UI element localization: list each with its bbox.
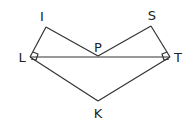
segment-LI [30, 27, 46, 57]
segment-IP [46, 27, 98, 56]
segment-ST [151, 26, 170, 57]
geometry-diagram: I S L P T K [0, 0, 193, 130]
label-L: L [18, 50, 26, 65]
segment-LK [30, 57, 98, 101]
segment-KT [98, 57, 170, 101]
label-I: I [40, 9, 44, 24]
label-P: P [94, 40, 102, 55]
diagram-svg: I S L P T K [0, 0, 193, 130]
label-K: K [94, 106, 103, 121]
label-T: T [173, 50, 182, 65]
label-S: S [148, 8, 156, 23]
segment-PS [98, 26, 151, 56]
